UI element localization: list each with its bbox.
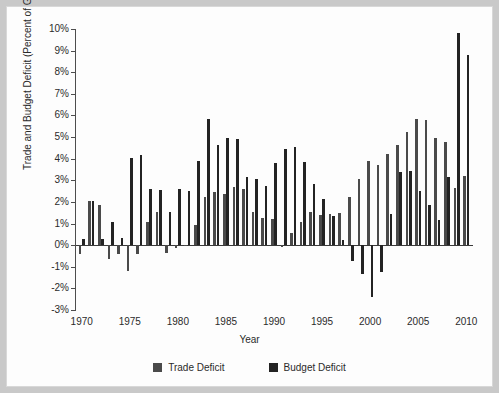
- bar: [252, 212, 255, 246]
- bar: [467, 55, 470, 245]
- bar: [92, 201, 95, 245]
- x-tick-label: 1995: [311, 317, 333, 327]
- legend-swatch-icon: [269, 363, 278, 372]
- bar: [226, 138, 229, 245]
- bar: [188, 191, 191, 245]
- bar: [463, 176, 466, 245]
- y-tick-label: 5%: [55, 132, 69, 142]
- y-axis-title: Trade and Budget Deficit (Percent of GDP…: [23, 0, 33, 170]
- bar: [447, 177, 450, 245]
- bar: [348, 197, 351, 246]
- bar: [149, 189, 152, 245]
- bar: [342, 240, 345, 245]
- bar: [284, 149, 287, 245]
- x-tick-label: 1975: [119, 317, 141, 327]
- bar: [313, 184, 316, 246]
- bar: [396, 145, 399, 246]
- bar: [194, 225, 197, 246]
- bar: [130, 158, 133, 246]
- bar: [271, 219, 274, 245]
- bar: [361, 245, 364, 274]
- bar: [184, 245, 187, 246]
- bar: [338, 213, 341, 245]
- y-tick-label: 2%: [55, 197, 69, 207]
- bar: [178, 189, 181, 245]
- bar: [236, 139, 239, 245]
- bar: [98, 205, 101, 245]
- plot-area: 10%9%8%7%6%5%4%3%2%1%0%-1%-2%-3% 1970197…: [75, 29, 473, 310]
- bar: [434, 138, 437, 245]
- bar: [300, 222, 303, 245]
- y-tick-label: -1%: [51, 262, 69, 272]
- y-tick-label: 7%: [55, 89, 69, 99]
- bar: [322, 199, 325, 245]
- bar: [233, 187, 236, 245]
- y-tick-label: 0%: [55, 240, 69, 250]
- chart-legend: Trade DeficitBudget Deficit: [7, 362, 492, 373]
- bar: [294, 147, 297, 245]
- bar: [165, 245, 168, 253]
- x-axis-title: Year: [7, 334, 492, 345]
- y-tick-label: 8%: [55, 67, 69, 77]
- bar: [274, 163, 277, 245]
- bar: [261, 218, 264, 245]
- y-tick-label: 10%: [49, 24, 69, 34]
- bar: [88, 201, 91, 245]
- bar: [399, 172, 402, 245]
- bar: [380, 245, 383, 272]
- bar: [386, 154, 389, 245]
- bar: [428, 205, 431, 245]
- y-tick-label: -3%: [51, 305, 69, 315]
- bar: [329, 214, 332, 245]
- y-tick-label: 9%: [55, 46, 69, 56]
- x-tick-label: 1980: [167, 317, 189, 327]
- bar: [117, 245, 120, 254]
- x-tick-label: 2010: [455, 317, 477, 327]
- bar: [438, 220, 441, 245]
- y-tick-label: 1%: [55, 219, 69, 229]
- bar: [377, 165, 380, 245]
- bar: [213, 192, 216, 245]
- bar: [457, 33, 460, 245]
- legend-item: Trade Deficit: [153, 362, 224, 373]
- x-tick-label: 1970: [71, 317, 93, 327]
- y-tick-mark: [71, 310, 76, 311]
- bar: [415, 119, 418, 245]
- bar: [281, 245, 284, 247]
- bar: [265, 186, 268, 245]
- bar: [319, 215, 322, 245]
- bar: [390, 214, 393, 245]
- bar: [146, 222, 149, 245]
- bar: [290, 233, 293, 245]
- bar: [169, 212, 172, 246]
- bar: [332, 216, 335, 245]
- legend-swatch-icon: [153, 363, 162, 372]
- bar: [121, 238, 124, 246]
- x-tick-label: 1990: [263, 317, 285, 327]
- bar: [140, 155, 143, 245]
- bar: [351, 245, 354, 261]
- bar: [204, 197, 207, 246]
- bar: [79, 245, 82, 254]
- chart-figure: Trade and Budget Deficit (Percent of GDP…: [6, 6, 493, 387]
- y-tick-label: 3%: [55, 175, 69, 185]
- bar: [197, 161, 200, 245]
- bar: [309, 212, 312, 246]
- bar: [111, 222, 114, 245]
- bar: [207, 119, 210, 245]
- bar: [108, 245, 111, 259]
- bar: [217, 145, 220, 246]
- bar: [175, 245, 178, 248]
- y-tick-label: -2%: [51, 283, 69, 293]
- bar: [444, 142, 447, 245]
- bar: [409, 171, 412, 246]
- x-tick-label: 2005: [407, 317, 429, 327]
- y-tick-label: 6%: [55, 110, 69, 120]
- bar: [371, 245, 374, 297]
- bar: [367, 161, 370, 245]
- bar: [358, 179, 361, 245]
- bar: [101, 239, 104, 245]
- bar: [425, 120, 428, 245]
- legend-label: Budget Deficit: [284, 362, 346, 373]
- bar: [406, 132, 409, 245]
